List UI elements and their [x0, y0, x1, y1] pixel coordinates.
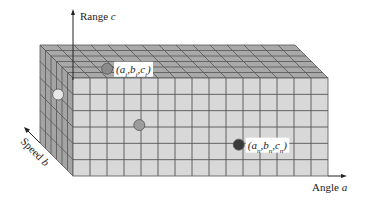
label-text: ,c — [272, 139, 280, 151]
range-axis-arrowhead — [71, 9, 75, 15]
point-side — [53, 89, 64, 100]
label-text: ) — [146, 63, 151, 76]
angle-axis-arrowhead — [341, 174, 347, 178]
point-mid — [134, 120, 145, 131]
label-text: ) — [282, 139, 287, 152]
point-i — [102, 63, 113, 74]
angle-axis-label: Angle a — [312, 181, 348, 193]
label-text: ,c — [137, 63, 145, 75]
point-n — [233, 139, 244, 150]
parameter-space-cube-diagram: Range c Angle a Speed b (ai,bi,ci)(an,bn… — [0, 0, 366, 203]
range-axis-label: Range c — [80, 10, 116, 22]
diagram-canvas: Range c Angle a Speed b (ai,bi,ci)(an,bn… — [0, 0, 366, 203]
